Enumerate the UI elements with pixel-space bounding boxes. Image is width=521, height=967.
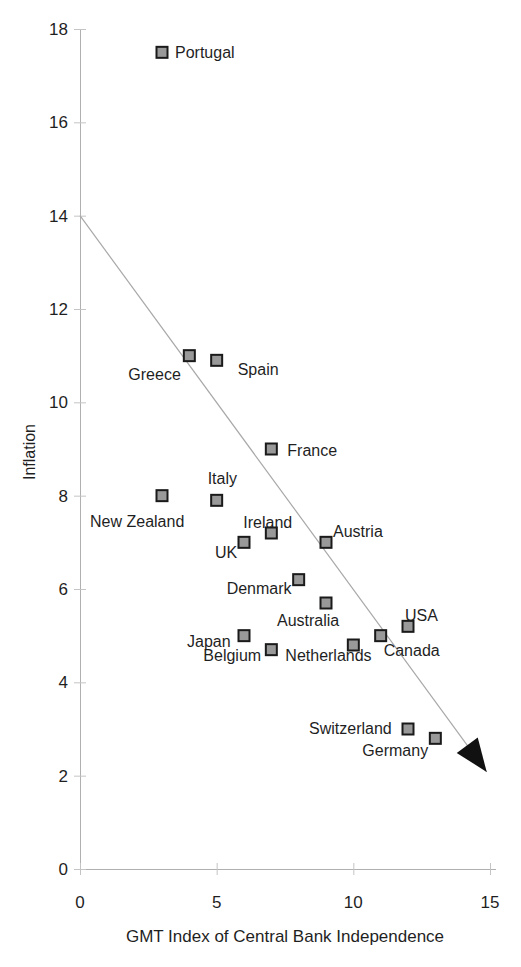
- point-label-belgium: Belgium: [203, 647, 261, 664]
- point-label-new-zealand: New Zealand: [90, 513, 184, 530]
- y-tick-label-6: 6: [59, 580, 68, 599]
- data-point-canada: [375, 630, 386, 641]
- y-tick-label-2: 2: [59, 767, 68, 786]
- y-tick-label-8: 8: [59, 487, 68, 506]
- data-point-new-zealand: [157, 490, 168, 501]
- point-label-spain: Spain: [238, 361, 279, 378]
- y-axis-title: Inflation: [21, 424, 39, 480]
- data-point-japan: [239, 630, 250, 641]
- y-tick-label-0: 0: [59, 860, 68, 879]
- point-label-italy: Italy: [208, 470, 237, 487]
- data-point-austria: [321, 537, 332, 548]
- data-point-portugal: [157, 47, 168, 58]
- point-label-canada: Canada: [384, 642, 440, 659]
- point-label-france: France: [287, 442, 337, 459]
- trend-arrowhead: [457, 738, 487, 772]
- inflation-vs-cbi-scatter-chart: 024681012141618051015PortugalGreeceSpain…: [0, 0, 521, 967]
- trend-line: [80, 216, 487, 772]
- data-point-uk: [239, 537, 250, 548]
- point-label-germany: Germany: [362, 742, 428, 759]
- point-label-usa: USA: [405, 607, 438, 624]
- y-tick-label-4: 4: [59, 673, 68, 692]
- x-tick-label-0: 0: [75, 893, 84, 912]
- plot-svg: 024681012141618051015PortugalGreeceSpain…: [0, 0, 521, 967]
- point-label-greece: Greece: [128, 366, 181, 383]
- data-point-france: [266, 444, 277, 455]
- point-label-netherlands: Netherlands: [285, 647, 371, 664]
- point-label-uk: UK: [215, 544, 238, 561]
- data-point-belgium: [266, 644, 277, 655]
- x-tick-label-15: 15: [481, 893, 500, 912]
- point-label-portugal: Portugal: [175, 44, 235, 61]
- point-label-switzerland: Switzerland: [309, 720, 392, 737]
- data-point-italy: [211, 495, 222, 506]
- y-tick-label-10: 10: [49, 393, 68, 412]
- x-axis-title: GMT Index of Central Bank Independence: [126, 927, 444, 947]
- x-tick-label-10: 10: [344, 893, 363, 912]
- point-label-ireland: Ireland: [243, 514, 292, 531]
- data-point-denmark: [293, 574, 304, 585]
- y-tick-label-14: 14: [49, 207, 68, 226]
- data-point-australia: [321, 598, 332, 609]
- y-tick-label-18: 18: [49, 20, 68, 39]
- x-tick-label-5: 5: [212, 893, 221, 912]
- y-tick-label-12: 12: [49, 300, 68, 319]
- point-label-austria: Austria: [333, 523, 383, 540]
- data-point-switzerland: [403, 724, 414, 735]
- point-label-denmark: Denmark: [227, 580, 293, 597]
- point-label-australia: Australia: [277, 612, 339, 629]
- data-point-germany: [430, 733, 441, 744]
- data-point-greece: [184, 350, 195, 361]
- y-tick-label-16: 16: [49, 113, 68, 132]
- data-point-spain: [211, 355, 222, 366]
